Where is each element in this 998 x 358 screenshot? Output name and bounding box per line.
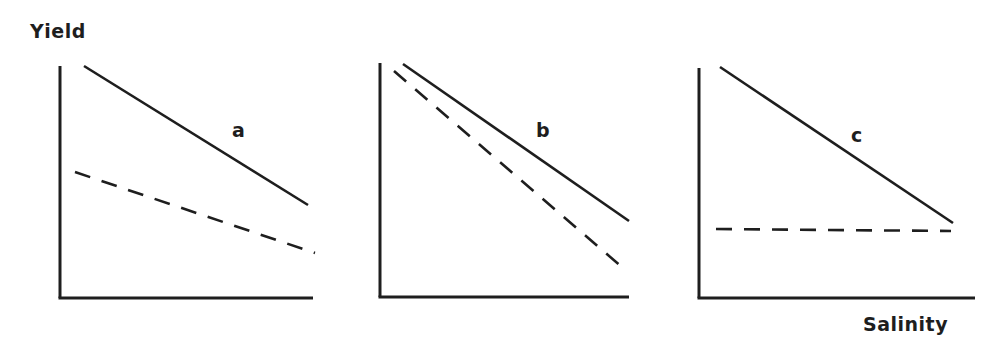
- figure-canvas: [0, 0, 998, 358]
- panel-b-label: b: [536, 119, 550, 141]
- panel-a-label: a: [232, 119, 245, 141]
- panel-a-solid-line: [84, 66, 308, 205]
- panel-c-label: c: [851, 124, 862, 146]
- panel-b-solid-line: [403, 64, 629, 221]
- panel-c-dashed-line: [716, 229, 951, 231]
- panel-b-dashed-line: [394, 71, 623, 268]
- y-axis-label: Yield: [30, 20, 86, 42]
- panel-c-solid-line: [720, 67, 953, 223]
- x-axis-label: Salinity: [863, 313, 948, 335]
- panels-group: [59, 63, 976, 298]
- panel-a-dashed-line: [75, 172, 315, 253]
